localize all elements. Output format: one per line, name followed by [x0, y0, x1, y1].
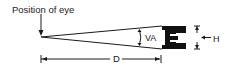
- visual-angle-arc: [138, 29, 142, 46]
- distance-dimension: [41, 55, 161, 63]
- visual-angle-label: VA: [145, 33, 156, 43]
- letter-e-optotype: [162, 26, 186, 49]
- sight-lines: [41, 26, 162, 49]
- eye-position-label: Position of eye: [12, 4, 74, 15]
- height-label: H: [213, 34, 220, 44]
- visual-angle-diagram: Position of eye VA H D: [0, 0, 228, 69]
- eye-position-arrow: [39, 14, 44, 36]
- height-dimension: [194, 26, 211, 49]
- distance-label: D: [113, 53, 120, 64]
